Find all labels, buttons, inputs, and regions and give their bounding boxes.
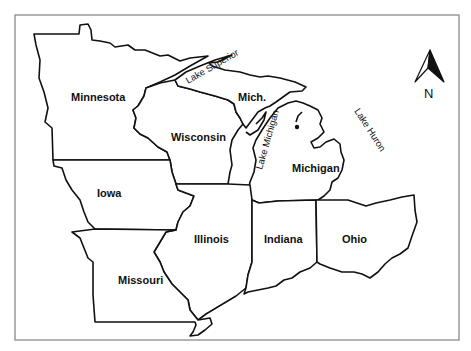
label-missouri: Missouri	[118, 274, 163, 286]
label-wisconsin: Wisconsin	[171, 131, 226, 143]
label-michigan: Michigan	[292, 162, 340, 174]
north-label: N	[424, 86, 433, 101]
label-lake-huron: Lake Huron	[352, 106, 388, 153]
label-michigan-upper: Mich.	[238, 91, 266, 103]
label-indiana: Indiana	[264, 233, 303, 245]
state-indiana	[244, 200, 317, 294]
label-iowa: Iowa	[97, 187, 122, 199]
north-arrow-icon	[415, 50, 444, 82]
lake-island-marker	[295, 125, 299, 129]
label-illinois: Illinois	[194, 233, 229, 245]
midwest-map: Minnesota Wisconsin Mich. Michigan Iowa …	[0, 0, 471, 351]
label-ohio: Ohio	[342, 233, 367, 245]
label-minnesota: Minnesota	[71, 91, 126, 103]
